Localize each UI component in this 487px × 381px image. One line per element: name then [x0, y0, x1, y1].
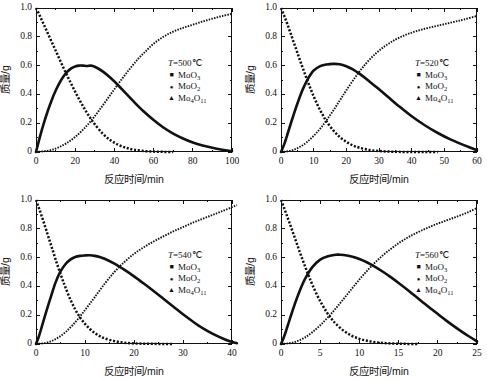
- legend-marker-square: ■: [168, 264, 175, 271]
- legend: T=560℃■MoO3●MoO2▲Mo4O11: [415, 250, 454, 296]
- legend-item-MoO3: ■MoO3: [168, 70, 207, 82]
- legend-label-Mo4O11: Mo4O11: [178, 93, 207, 105]
- legend-temperature: T=500℃: [168, 58, 207, 70]
- legend-item-MoO3: ■MoO3: [168, 262, 207, 274]
- legend-marker-triangle: ▲: [415, 95, 422, 102]
- legend-label-MoO3: MoO3: [178, 262, 200, 274]
- legend-label-Mo4O11: Mo4O11: [425, 93, 454, 105]
- legend-label-Mo4O11: Mo4O11: [425, 285, 454, 297]
- legend-marker-dot: ●: [415, 84, 422, 90]
- legend-marker-dot: ●: [415, 276, 422, 282]
- legend-label-MoO2: MoO2: [425, 81, 447, 93]
- legend-item-MoO2: ●MoO2: [168, 273, 207, 285]
- y-axis-label: 质量/g: [0, 242, 12, 302]
- legend-label-MoO2: MoO2: [178, 273, 200, 285]
- legend-marker-dot: ●: [168, 84, 175, 90]
- legend-temperature: T=520℃: [415, 58, 454, 70]
- legend: T=520℃■MoO3●MoO2▲Mo4O11: [415, 58, 454, 104]
- legend-item-MoO3: ■MoO3: [415, 262, 454, 274]
- x-axis-label: 反应时间/min: [281, 363, 477, 378]
- x-axis-label: 反应时间/min: [281, 171, 477, 186]
- legend-label-MoO2: MoO2: [178, 81, 200, 93]
- legend-temperature: T=560℃: [415, 250, 454, 262]
- legend-label-Mo4O11: Mo4O11: [178, 285, 207, 297]
- legend-label-MoO3: MoO3: [425, 262, 447, 274]
- legend-item-MoO3: ■MoO3: [415, 70, 454, 82]
- legend-marker-triangle: ▲: [168, 95, 175, 102]
- series-curve-MoO3: [281, 200, 418, 344]
- legend-temperature: T=540℃: [168, 250, 207, 262]
- legend-marker-square: ■: [415, 264, 422, 271]
- legend-item-MoO2: ●MoO2: [415, 81, 454, 93]
- legend-item-Mo4O11: ▲Mo4O11: [415, 93, 454, 105]
- x-axis-label: 反应时间/min: [36, 171, 232, 186]
- legend-label-MoO3: MoO3: [425, 70, 447, 82]
- legend: T=540℃■MoO3●MoO2▲Mo4O11: [168, 250, 207, 296]
- legend-item-MoO2: ●MoO2: [168, 81, 207, 93]
- legend-item-Mo4O11: ▲Mo4O11: [168, 93, 207, 105]
- legend: T=500℃■MoO3●MoO2▲Mo4O11: [168, 58, 207, 104]
- series-curve-MoO3: [36, 8, 173, 152]
- legend-marker-dot: ●: [168, 276, 175, 282]
- legend-label-MoO3: MoO3: [178, 70, 200, 82]
- series-curve-MoO3: [36, 200, 173, 344]
- legend-marker-triangle: ▲: [168, 287, 175, 294]
- legend-item-Mo4O11: ▲Mo4O11: [415, 285, 454, 297]
- series-curve-Mo4O11: [36, 205, 237, 344]
- legend-marker-triangle: ▲: [415, 287, 422, 294]
- legend-marker-square: ■: [415, 72, 422, 79]
- panel-bottom-left: 01020304000.20.40.60.81.0质量/g反应时间/minT=5…: [0, 190, 243, 381]
- legend-marker-square: ■: [168, 72, 175, 79]
- x-axis-label: 反应时间/min: [36, 363, 232, 378]
- panel-bottom-right: 051015202500.20.40.60.81.0质量/g反应时间/minT=…: [243, 190, 487, 381]
- panel-top-right: 010203040506000.20.40.60.81.0质量/g反应时间/mi…: [243, 0, 487, 190]
- y-axis-label: 质量/g: [0, 50, 12, 110]
- legend-item-MoO2: ●MoO2: [415, 273, 454, 285]
- y-axis-label: 质量/g: [242, 242, 257, 302]
- legend-label-MoO2: MoO2: [425, 273, 447, 285]
- figure-grid: 02040608010000.20.40.60.81.0质量/g反应时间/min…: [0, 0, 487, 381]
- y-axis-label: 质量/g: [242, 50, 257, 110]
- panel-top-left: 02040608010000.20.40.60.81.0质量/g反应时间/min…: [0, 0, 243, 190]
- legend-item-Mo4O11: ▲Mo4O11: [168, 285, 207, 297]
